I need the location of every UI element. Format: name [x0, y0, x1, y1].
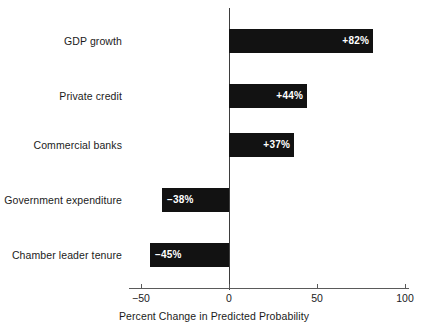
bar-private-credit: +44%	[229, 84, 307, 108]
x-tick-mark-100	[405, 284, 406, 288]
plot-area: +82% +44% +37% −38% −45% −50 0 50 100	[0, 0, 428, 290]
bar-gdp-growth: +82%	[229, 29, 373, 53]
x-tick-label-50: 50	[311, 292, 323, 304]
bar-chart: GDP growth Private credit Commercial ban…	[0, 0, 428, 335]
x-axis-line	[129, 288, 409, 289]
bar-value-label: +44%	[276, 84, 303, 108]
bar-chamber-leader-tenure: −45%	[150, 243, 229, 267]
x-tick-label-0: 0	[226, 292, 232, 304]
bar-commercial-banks: +37%	[229, 133, 294, 157]
bar-value-label: −45%	[155, 243, 182, 267]
x-tick-mark-50	[317, 284, 318, 288]
x-axis-title: Percent Change in Predicted Probability	[0, 310, 428, 323]
bar-value-label: +37%	[263, 133, 290, 157]
x-tick-label-100: 100	[396, 292, 414, 304]
x-tick-mark-neg50	[141, 284, 142, 288]
bar-value-label: −38%	[167, 188, 194, 212]
bar-value-label: +82%	[342, 29, 369, 53]
x-tick-mark-0	[229, 284, 230, 288]
bar-government-expenditure: −38%	[162, 188, 229, 212]
x-tick-label-neg50: −50	[132, 292, 150, 304]
